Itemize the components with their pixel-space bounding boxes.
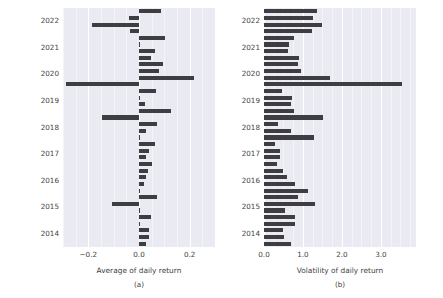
- x-tick-label-2.0: 2.0: [327, 251, 357, 259]
- bar: [129, 16, 139, 20]
- y-tick-label-2021: 2021: [33, 44, 59, 52]
- bar: [264, 16, 313, 20]
- gridline-minor: [313, 8, 314, 247]
- y-tick-label-2021: 2021: [234, 44, 260, 52]
- gridline-minor: [164, 8, 165, 247]
- plot-area-b: [264, 8, 416, 247]
- bar: [264, 208, 285, 212]
- gridline-minor: [126, 8, 127, 247]
- gridline-minor: [63, 8, 64, 247]
- gridline-minor: [76, 8, 77, 247]
- y-tick-label-2016: 2016: [234, 177, 260, 185]
- gridline-minor: [400, 8, 401, 247]
- bar: [264, 23, 322, 27]
- bar: [139, 9, 161, 13]
- y-tick-label-2020: 2020: [234, 70, 260, 78]
- bar: [139, 142, 155, 146]
- bar: [264, 195, 298, 199]
- bar: [139, 76, 194, 80]
- bar: [264, 96, 292, 100]
- gridline-minor: [410, 8, 411, 247]
- bar: [139, 215, 151, 219]
- bar: [139, 162, 152, 166]
- bar: [139, 235, 149, 239]
- bar: [264, 122, 278, 126]
- bar: [139, 195, 157, 199]
- bar: [264, 76, 330, 80]
- bar: [139, 169, 148, 173]
- y-tick-label-2014: 2014: [33, 230, 59, 238]
- x-tick-label-0.2: 0.2: [175, 251, 205, 259]
- bar: [66, 82, 139, 86]
- gridline-minor: [332, 8, 333, 247]
- bar: [139, 155, 146, 159]
- bar: [264, 162, 277, 166]
- bar: [264, 142, 275, 146]
- bar: [139, 228, 149, 232]
- panel-a: 202220212020201920182017201620152014−0.2…: [0, 0, 222, 298]
- bar: [130, 29, 139, 33]
- figure-container: 202220212020201920182017201620152014−0.2…: [0, 0, 443, 298]
- gridline-major: [190, 8, 191, 247]
- bar: [264, 9, 317, 13]
- bar: [139, 89, 156, 93]
- x-tick-label-1.0: 1.0: [288, 251, 318, 259]
- y-tick-label-2015: 2015: [234, 203, 260, 211]
- bar: [139, 135, 140, 139]
- bar: [139, 42, 140, 46]
- bar: [264, 115, 323, 119]
- bar: [139, 56, 151, 60]
- bar: [139, 182, 144, 186]
- gridline-minor: [293, 8, 294, 247]
- y-tick-label-2017: 2017: [33, 150, 59, 158]
- bar: [139, 62, 163, 66]
- y-tick-label-2016: 2016: [33, 177, 59, 185]
- y-tick-label-2019: 2019: [234, 97, 260, 105]
- bar: [264, 89, 282, 93]
- y-tick-label-2022: 2022: [234, 17, 260, 25]
- gridline-minor: [322, 8, 323, 247]
- bar: [112, 202, 139, 206]
- gridline-minor: [371, 8, 372, 247]
- bar: [264, 36, 294, 40]
- bar: [139, 208, 140, 212]
- bar: [264, 202, 315, 206]
- gridline-major: [342, 8, 343, 247]
- bar: [264, 69, 301, 73]
- panel-b: 2022202120202019201820172016201520140.01…: [221, 0, 443, 298]
- bar: [139, 109, 171, 113]
- bar: [139, 49, 155, 53]
- gridline-minor: [361, 8, 362, 247]
- y-tick-label-2018: 2018: [33, 124, 59, 132]
- bar: [264, 82, 402, 86]
- bar: [264, 129, 291, 133]
- bar: [139, 69, 159, 73]
- gridline-minor: [152, 8, 153, 247]
- bar: [264, 175, 287, 179]
- bar: [264, 56, 299, 60]
- x-tick-label-0.0: 0.0: [124, 251, 154, 259]
- bar: [139, 189, 140, 193]
- plot-area-a: [63, 8, 215, 247]
- bar: [92, 23, 139, 27]
- gridline-minor: [177, 8, 178, 247]
- bar: [264, 135, 314, 139]
- x-tick-label--0.2: −0.2: [73, 251, 103, 259]
- panel-caption-b: (b): [264, 280, 416, 289]
- bar: [264, 169, 283, 173]
- gridline-major: [303, 8, 304, 247]
- bar: [264, 189, 308, 193]
- bar: [139, 222, 140, 226]
- bar: [102, 115, 139, 119]
- bar: [264, 42, 289, 46]
- bar: [139, 96, 140, 100]
- gridline-minor: [391, 8, 392, 247]
- gridline-minor: [352, 8, 353, 247]
- x-tick-label-0.0: 0.0: [249, 251, 279, 259]
- bar: [264, 215, 295, 219]
- bar: [264, 242, 291, 246]
- bar: [264, 155, 280, 159]
- bar: [264, 149, 280, 153]
- bar: [139, 242, 146, 246]
- y-tick-label-2015: 2015: [33, 203, 59, 211]
